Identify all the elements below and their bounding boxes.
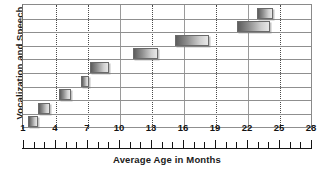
x-axis-title: Average Age in Months [22, 154, 312, 165]
gridline-vertical [280, 5, 281, 129]
x-tick-major [311, 140, 312, 148]
row-baseline [23, 59, 311, 60]
bar [257, 8, 273, 19]
x-tick-label: 13 [146, 122, 157, 133]
gridline-vertical [184, 5, 185, 129]
x-tick-major [151, 140, 152, 148]
x-tick-label: 25 [274, 122, 285, 133]
x-tick-label: 10 [114, 122, 125, 133]
row-baseline [23, 32, 311, 33]
x-tick-label: 19 [210, 122, 221, 133]
gridline-vertical [88, 5, 89, 129]
x-tick-minor [66, 142, 67, 148]
x-tick-minor [98, 142, 99, 148]
x-tick-major [247, 140, 248, 148]
x-tick-label: 1 [20, 122, 25, 133]
x-tick-minor [258, 142, 259, 148]
x-tick-major [87, 140, 88, 148]
x-tick-label: 28 [306, 122, 317, 133]
gridline-vertical [216, 5, 217, 129]
bar [133, 48, 159, 59]
gridline-vertical [56, 5, 57, 129]
bar [175, 35, 208, 46]
bar [81, 76, 90, 87]
x-tick-minor [194, 142, 195, 148]
x-tick-minor [44, 142, 45, 148]
row-baseline [23, 87, 311, 88]
x-axis-ruler: 14710131619222528 [22, 134, 312, 153]
x-tick-minor [290, 142, 291, 148]
x-tick-minor [76, 142, 77, 148]
x-tick-minor [108, 142, 109, 148]
x-tick-major [23, 140, 24, 148]
x-tick-minor [236, 142, 237, 148]
x-tick-minor [226, 142, 227, 148]
x-tick-major [183, 140, 184, 148]
bar [59, 89, 71, 100]
x-axis-line [22, 148, 312, 149]
x-tick-major [279, 140, 280, 148]
x-tick-label: 22 [242, 122, 253, 133]
x-tick-label: 4 [52, 122, 57, 133]
chart-root: Vocalization and Speech 1471013161922252… [0, 0, 322, 173]
row-baseline [23, 46, 311, 47]
x-tick-minor [172, 142, 173, 148]
x-tick-minor [162, 142, 163, 148]
x-tick-minor [300, 142, 301, 148]
row-baseline [23, 73, 311, 74]
bar [38, 103, 50, 114]
row-baseline [23, 100, 311, 101]
gridline-vertical [120, 5, 121, 129]
bar [237, 21, 270, 32]
x-tick-label: 7 [84, 122, 89, 133]
row-baseline [23, 127, 311, 128]
x-tick-major [55, 140, 56, 148]
x-tick-minor [130, 142, 131, 148]
gridline-vertical [152, 5, 153, 129]
x-tick-major [119, 140, 120, 148]
x-tick-minor [204, 142, 205, 148]
x-tick-minor [268, 142, 269, 148]
row-baseline [23, 114, 311, 115]
x-tick-minor [34, 142, 35, 148]
x-tick-minor [140, 142, 141, 148]
bar [90, 62, 109, 73]
x-tick-label: 16 [178, 122, 189, 133]
bar [28, 116, 38, 127]
plot-area [22, 4, 312, 129]
row-baseline [23, 19, 311, 20]
x-tick-major [215, 140, 216, 148]
